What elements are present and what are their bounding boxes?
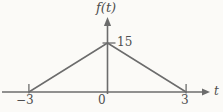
x-axis-label: t: [214, 85, 219, 97]
y-tick-label-fifteen: 15: [117, 36, 132, 48]
x-tick-label-neg3: −3: [16, 94, 34, 106]
triangle-pulse-figure: f(t) t −3 0 3 15: [0, 0, 223, 112]
y-axis-label: f(t): [96, 1, 116, 14]
x-axis-arrowhead: [202, 88, 210, 95]
x-tick-label-zero: 0: [98, 94, 106, 106]
x-tick-label-three: 3: [181, 94, 189, 106]
y-axis-arrowhead: [104, 17, 111, 26]
